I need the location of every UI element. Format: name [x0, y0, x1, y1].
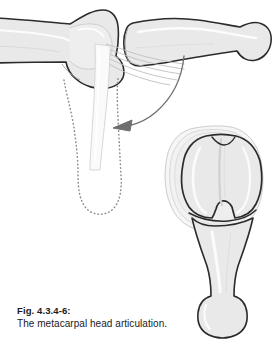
caption-label: Fig. 4.3.4-6: [17, 304, 227, 317]
figure-caption: Fig. 4.3.4-6: The metacarpal head articu… [17, 304, 227, 330]
intercondylar-groove-shadow [224, 140, 225, 198]
figure-container: Fig. 4.3.4-6: The metacarpal head articu… [0, 0, 275, 348]
anatomy-illustration [0, 0, 275, 348]
caption-text: The metacarpal head articulation. [17, 317, 227, 330]
